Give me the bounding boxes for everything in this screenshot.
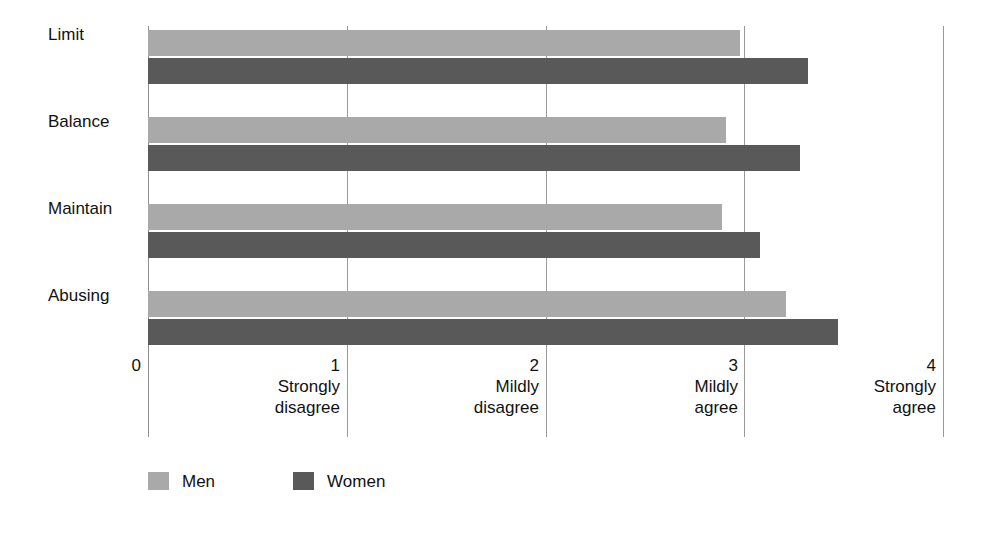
x-tick-2-caption-line1: Mildly	[426, 376, 539, 397]
x-tick-4-caption-line1: Strongly	[823, 376, 936, 397]
bar-maintain-men	[148, 204, 722, 230]
legend-item-men: Men	[148, 472, 215, 490]
bar-chart: Limit Balance Maintain Abusing 0	[0, 0, 999, 534]
x-tick-1-value: 1	[227, 355, 340, 376]
x-tick-1-caption-line2: disagree	[227, 397, 340, 418]
category-label-balance: Balance	[48, 113, 109, 130]
x-tick-3-value: 3	[625, 355, 738, 376]
x-tick-2: 2 Mildly disagree	[426, 355, 539, 418]
bar-limit-women	[148, 58, 808, 84]
x-tick-1: 1 Strongly disagree	[227, 355, 340, 418]
bar-balance-men	[148, 117, 726, 143]
bar-balance-women	[148, 145, 800, 171]
bar-abusing-women	[148, 319, 838, 345]
legend-item-women: Women	[293, 472, 385, 490]
gridline-4	[943, 26, 944, 437]
bar-abusing-men	[148, 291, 786, 317]
legend-swatch-women-icon	[293, 472, 314, 490]
x-tick-0-value: 0	[28, 355, 141, 376]
bar-maintain-women	[148, 232, 760, 258]
category-label-maintain: Maintain	[48, 200, 112, 217]
x-tick-4-caption-line2: agree	[823, 397, 936, 418]
category-label-abusing: Abusing	[48, 287, 109, 304]
legend-label-men: Men	[182, 473, 215, 490]
x-tick-3-caption-line2: agree	[625, 397, 738, 418]
x-tick-4: 4 Strongly agree	[823, 355, 936, 418]
bar-limit-men	[148, 30, 740, 56]
legend-swatch-men-icon	[148, 472, 169, 490]
legend-label-women: Women	[327, 473, 385, 490]
legend: Men Women	[148, 472, 385, 490]
x-tick-4-value: 4	[823, 355, 936, 376]
x-tick-3-caption-line1: Mildly	[625, 376, 738, 397]
x-tick-2-value: 2	[426, 355, 539, 376]
category-label-limit: Limit	[48, 26, 84, 43]
plot-area: Limit Balance Maintain Abusing 0	[0, 0, 999, 534]
x-tick-1-caption-line1: Strongly	[227, 376, 340, 397]
x-tick-0: 0	[28, 355, 141, 376]
x-tick-2-caption-line2: disagree	[426, 397, 539, 418]
x-tick-3: 3 Mildly agree	[625, 355, 738, 418]
